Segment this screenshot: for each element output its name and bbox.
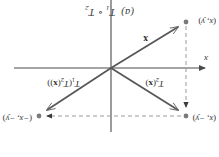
- figure-root: (a) T1 ∘ T2: [0, 0, 219, 157]
- vector-label-t1t2x-t: T: [75, 79, 80, 89]
- point-label-x-x: x: [209, 17, 213, 27]
- vector-label-t2x: T2(x): [145, 77, 164, 88]
- point-label-t1t2x: (−x, −y): [3, 114, 32, 123]
- vector-t2x-arrow: [111, 68, 178, 110]
- vector-t1t2x-arrow: [47, 68, 111, 110]
- rotated-figure-canvas: (a) T1 ∘ T2: [0, 0, 219, 157]
- x-axis-label: x: [204, 54, 208, 64]
- vector-label-t1t2x: T1(T2(x)): [47, 77, 80, 88]
- vector-label-t2x-sub: 2: [156, 77, 159, 84]
- vector-label-t1t2x-inner-sub: 2: [61, 77, 64, 84]
- vector-label-t2x-t: T: [159, 79, 164, 89]
- point-label-x-y: y: [201, 17, 205, 27]
- point-dot-t1t2x: [37, 114, 42, 119]
- point-label-t2x: (x, −y): [193, 114, 217, 123]
- vector-label-t1t2x-inner-t: T: [64, 79, 69, 89]
- vector-label-t1t2x-inner-arg: x: [53, 79, 58, 89]
- coordinate-plot: [0, 0, 219, 157]
- point-dot-x: [184, 20, 189, 25]
- vector-label-t2x-arg: x: [148, 79, 153, 89]
- vector-label-x: x: [143, 34, 148, 44]
- point-label-t1t2x-y: −y: [6, 114, 16, 124]
- point-label-t1t2x-x: −x: [20, 114, 30, 124]
- point-dot-t2x: [184, 114, 189, 119]
- vector-label-t1t2x-sub: 1: [72, 77, 75, 84]
- point-label-x: (x, y): [198, 17, 216, 26]
- point-label-t2x-y: −y: [195, 114, 205, 124]
- point-label-t2x-x: x: [209, 114, 213, 124]
